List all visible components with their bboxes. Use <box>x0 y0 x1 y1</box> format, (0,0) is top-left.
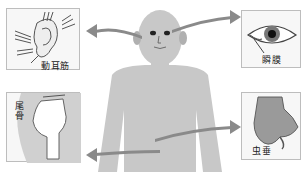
panel-nictitating-membrane: 瞬膜 <box>241 10 301 68</box>
human-figure <box>98 10 222 172</box>
label-tailbone: 尾骨 <box>13 101 26 120</box>
panel-tailbone: 尾骨 <box>6 92 80 162</box>
label-nictitating-membrane: 瞬膜 <box>262 53 281 66</box>
label-ear-muscle: 動耳筋 <box>41 59 70 72</box>
intestine-icon <box>242 93 302 161</box>
panel-appendix: 虫垂 <box>241 92 301 160</box>
label-appendix: 虫垂 <box>252 144 271 157</box>
panel-ear-muscle: 動耳筋 <box>6 8 80 70</box>
